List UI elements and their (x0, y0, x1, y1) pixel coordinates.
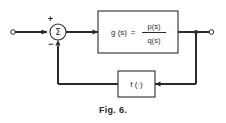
figure-container: Σ + − g (s) = p(s) q(s) f (·) Fig. (0, 0, 226, 123)
feedback-block-label: f (·) (130, 80, 143, 89)
plus-sign-label: + (48, 14, 53, 24)
input-arrow-head (42, 29, 48, 34)
feedback-arrow-head (55, 40, 60, 46)
error-arrow-head (93, 29, 99, 34)
forward-block-g-label: g (s) (111, 28, 127, 37)
summing-junction-sigma: Σ (55, 27, 61, 37)
output-terminal-circle (209, 30, 214, 35)
feedback-block-input-arrow-head (155, 81, 161, 86)
figure-caption: Fig. 6. (99, 105, 127, 115)
minus-sign-label: − (48, 39, 53, 49)
figure-caption-row: Fig. 6. (0, 99, 226, 117)
forward-block-denominator: q(s) (148, 36, 161, 45)
forward-block-numerator: p(s) (148, 22, 161, 31)
input-terminal-circle (11, 30, 16, 35)
forward-block-equals: = (131, 28, 136, 37)
